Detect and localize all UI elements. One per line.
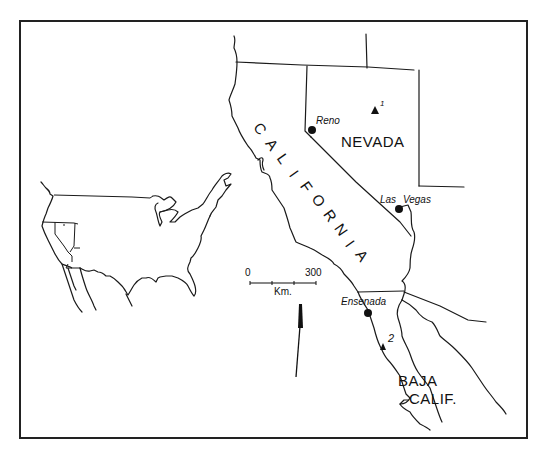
scale-start-label: 0 [245,268,251,278]
scale-end-label: 300 [305,268,322,278]
main-map [229,34,506,430]
us-inset-map [41,173,231,312]
site-2-label: 2 [388,333,394,344]
site-1-triangle-icon [371,106,379,114]
baja-label-line2: CALIF. [409,391,457,406]
map-canvas [0,0,542,451]
north-arrow [296,304,303,377]
ensenada-dot [364,309,372,317]
reno-dot [308,126,316,134]
nevada-label: NEVADA [341,134,405,149]
scale-unit-label: Km. [274,287,292,297]
map-frame [20,21,527,438]
las-vegas-dot [395,205,403,213]
ensenada-label: Ensenada [341,297,386,307]
scale-bar [250,281,316,285]
reno-label: Reno [316,116,340,126]
site-1-label: 1 [380,100,384,108]
baja-label-line1: BAJA [398,373,438,388]
las-vegas-label: Las Vegas [380,195,431,205]
